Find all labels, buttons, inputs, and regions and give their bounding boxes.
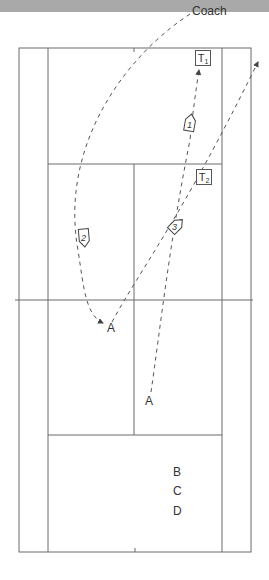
- waiting-player-c: C: [173, 485, 182, 497]
- target-1-sub: 1: [204, 58, 208, 65]
- ball-paths: [75, 14, 258, 392]
- target-2-sub: 2: [205, 177, 209, 184]
- player-a-far: A: [145, 395, 153, 407]
- court-lines: [15, 48, 253, 552]
- path-2-feed: [75, 14, 190, 323]
- tennis-court: 1 2 3: [0, 0, 269, 580]
- shot-markers: [78, 113, 196, 247]
- player-a-near: A: [107, 322, 115, 334]
- marker-numbers: 1 2 3: [80, 120, 192, 243]
- marker-1-number: 1: [187, 120, 192, 130]
- waiting-player-d: D: [173, 505, 182, 517]
- target-1-box: T1: [195, 50, 211, 66]
- marker-2-number: 2: [80, 233, 86, 243]
- coach-label: Coach: [192, 5, 227, 17]
- waiting-player-b: B: [173, 466, 181, 478]
- target-2-box: T2: [196, 169, 212, 185]
- marker-3-number: 3: [172, 222, 177, 232]
